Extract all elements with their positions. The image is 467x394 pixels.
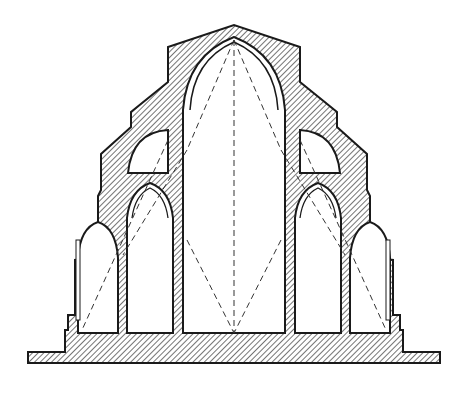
cathedral-section-svg [0, 0, 467, 394]
right-outer-aisle [350, 222, 390, 333]
right-wall-strip [386, 240, 390, 320]
right-inner-aisle [295, 183, 341, 333]
left-outer-aisle [78, 222, 118, 333]
section-drawing [0, 0, 467, 394]
left-inner-aisle [127, 183, 173, 333]
left-wall-strip [76, 240, 80, 320]
